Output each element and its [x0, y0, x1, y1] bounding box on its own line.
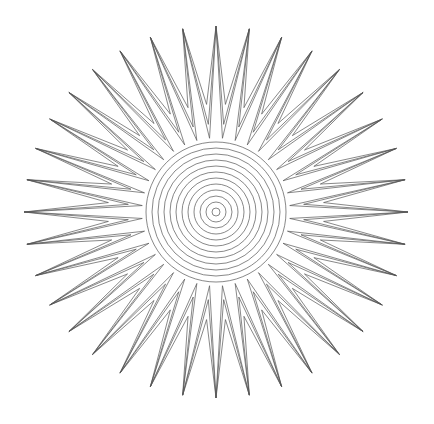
concentric-rings	[146, 142, 286, 282]
sunburst-svg	[0, 0, 434, 424]
ring-1	[146, 142, 286, 282]
sunburst-drawing	[0, 0, 434, 424]
